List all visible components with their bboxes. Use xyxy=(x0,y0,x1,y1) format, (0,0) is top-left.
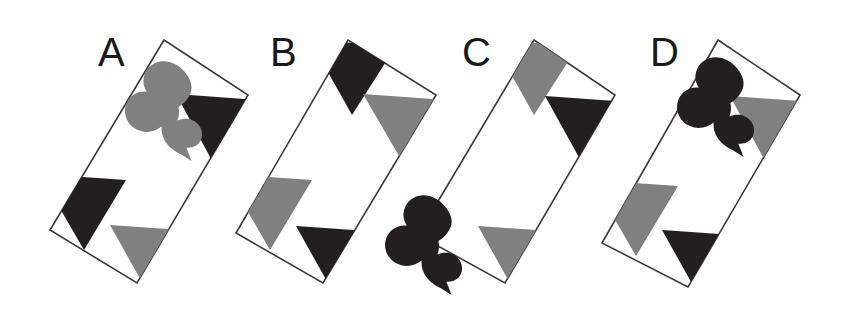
card-label-c: C xyxy=(462,32,491,72)
card-d[interactable] xyxy=(592,40,812,305)
card-a[interactable] xyxy=(40,40,258,300)
cards-figure xyxy=(0,0,845,312)
card-label-a: A xyxy=(98,32,125,72)
card-label-b: B xyxy=(270,32,297,72)
card-c[interactable] xyxy=(376,40,628,301)
figure-stage: A B C D xyxy=(0,0,845,312)
card-label-d: D xyxy=(650,32,679,72)
